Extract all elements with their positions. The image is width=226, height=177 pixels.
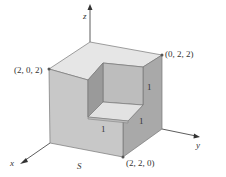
z-axis-arrow-icon [88,4,93,10]
notch-back-wall [103,63,143,105]
y-axis-arrow-icon [194,134,201,139]
vertex-dot [161,54,164,57]
notch-edge-label-vertical: 1 [147,82,152,92]
notch-edge-label-front: 1 [101,124,106,134]
y-axis [162,129,196,136]
x-axis-label: x [9,158,14,168]
point-label-0-2-2: (0, 2, 2) [165,49,194,59]
surface-label: S [77,161,82,171]
y-axis-label: y [195,140,200,150]
z-axis-label: z [82,11,87,21]
point-label-2-0-2: (2, 0, 2) [14,65,43,75]
vertex-dot [48,68,51,71]
vertex-dot [122,156,125,159]
point-label-2-2-0: (2, 2, 0) [126,158,155,168]
notch-edge-label-right: 1 [139,116,144,126]
x-axis [24,143,50,161]
notched-cube-diagram: z x y (2, 0, 2) (0, 2, 2) (2, 2, 0) 1 1 … [0,0,226,177]
